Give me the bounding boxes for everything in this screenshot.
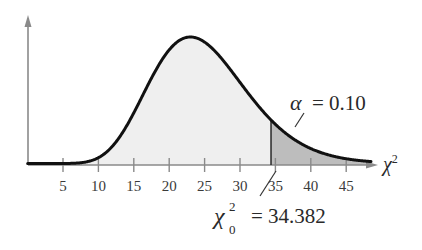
- x-tick-label: 5: [59, 178, 67, 194]
- alpha-pointer-line: [295, 113, 304, 127]
- critical-value-text: = 34.382: [251, 204, 326, 228]
- x-tick-label: 25: [197, 178, 212, 194]
- x-tick-label: 40: [303, 178, 318, 194]
- x-tick-label: 10: [91, 178, 106, 194]
- rejection-region-area: [271, 120, 371, 165]
- x-tick-label: 20: [162, 178, 177, 194]
- y-axis: [25, 15, 32, 165]
- y-axis-arrow-icon: [25, 15, 32, 27]
- x-tick-label: 30: [233, 178, 248, 194]
- alpha-annotation: α = 0.10: [290, 90, 366, 127]
- critical-value-subscript: 0: [229, 222, 236, 237]
- x-tick-label: 45: [339, 178, 354, 194]
- alpha-symbol: α: [290, 90, 302, 115]
- chi-square-chart: 51015202530354045 χ2 α = 0.10 χ 2 0 = 34…: [0, 0, 422, 250]
- x-tick-label: 15: [126, 178, 141, 194]
- x-axis-label: χ2: [381, 152, 398, 176]
- distribution-body-area: [28, 37, 271, 165]
- critical-value-superscript: 2: [229, 199, 236, 214]
- critical-value-symbol: χ: [212, 203, 226, 229]
- alpha-value: = 0.10: [312, 91, 366, 115]
